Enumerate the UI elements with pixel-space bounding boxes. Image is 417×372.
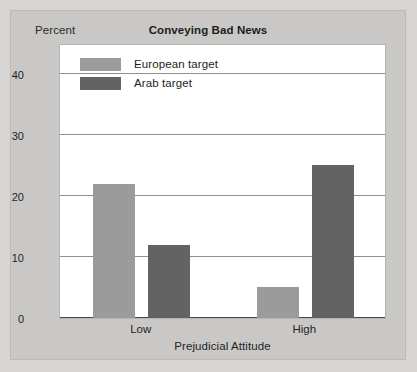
chart-title: Conveying Bad News [11,24,405,36]
plot-inner: European target Arab target [60,45,385,318]
chart-figure: Percent Conveying Bad News European targ… [11,11,405,359]
y-tick-label-30: 30 [0,130,24,142]
legend-item-arab: Arab target [80,76,218,90]
legend-label-arab: Arab target [134,77,192,89]
y-tick-label-40: 40 [0,69,24,81]
legend-swatch-european-icon [80,58,121,71]
bar-low-european-target [93,184,135,318]
x-axis-title: Prejudicial Attitude [59,340,386,352]
bar-low-arab-target [148,245,190,318]
x-tick-label-high: High [292,323,316,335]
bar-high-european-target [257,287,299,318]
plot-area: European target Arab target [59,44,386,319]
chart-legend: European target Arab target [80,57,218,95]
legend-swatch-arab-icon [80,77,121,90]
y-tick-label-10: 10 [0,252,24,264]
y-tick-label-0: 0 [0,313,24,325]
x-tick-label-low: Low [130,323,151,335]
legend-item-european: European target [80,57,218,71]
gridline-30 [60,134,385,135]
bar-high-arab-target [312,165,354,318]
legend-label-european: European target [134,58,218,70]
y-tick-label-20: 20 [0,191,24,203]
